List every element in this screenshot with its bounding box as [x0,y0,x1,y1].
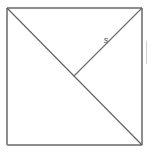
figure-canvas: s [0,0,151,152]
figure-background [0,0,151,152]
segment-label-s: s [104,35,109,45]
geometry-figure: s [0,0,151,152]
